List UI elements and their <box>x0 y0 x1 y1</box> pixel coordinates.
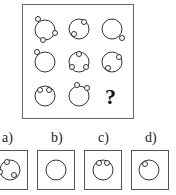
question-mark: ? <box>105 84 116 110</box>
option-d-label: d) <box>145 130 157 146</box>
option-d-box[interactable] <box>131 150 169 190</box>
option-c-box[interactable] <box>84 150 122 190</box>
option-a-box[interactable] <box>0 150 28 190</box>
option-c-label: c) <box>98 130 109 146</box>
option-b-label: b) <box>51 130 63 146</box>
option-b-box[interactable] <box>37 150 75 190</box>
option-a-label: a) <box>2 130 13 146</box>
